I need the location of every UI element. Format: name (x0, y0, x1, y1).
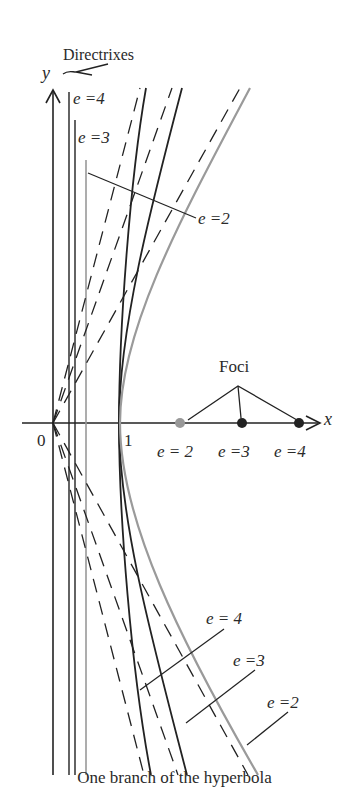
directrix-label-e4: e =4 (73, 90, 105, 107)
leader-e3-bottom (186, 670, 255, 723)
foci-pointer (188, 386, 297, 420)
asymptote-e3-lower (53, 423, 178, 775)
foci (175, 386, 304, 428)
foci-pointer-mid (238, 386, 241, 418)
leader-e2-bottom (247, 712, 288, 745)
hyperbola-branches (119, 88, 258, 775)
directrixes-label: Directrixes (63, 47, 134, 63)
directrices (69, 92, 86, 775)
directrix-label-e3: e =3 (78, 129, 110, 146)
curve-label-e2-top: e =2 (198, 210, 230, 227)
y-axis-label: y (42, 64, 50, 82)
curve-label-e3-bottom: e =3 (233, 652, 265, 669)
asymptotes (53, 88, 248, 775)
asymptote-e4-lower (53, 423, 144, 775)
focus-label-e2: e = 2 (157, 443, 193, 460)
axes (22, 90, 320, 775)
foci-label: Foci (219, 358, 249, 375)
focus-label-e4: e =4 (274, 443, 306, 460)
origin-label: 0 (37, 432, 46, 449)
directrixes-pointer (63, 64, 108, 75)
curve-label-e2-bottom: e =2 (267, 694, 299, 711)
asymptote-e2-lower (53, 423, 248, 775)
hyperbola-e2 (120, 88, 258, 775)
focus-e3 (237, 418, 247, 428)
curve-label-e4-bottom: e = 4 (206, 610, 242, 627)
vertex-label: 1 (124, 432, 133, 449)
focus-label-e3: e =3 (218, 443, 250, 460)
hyperbola-diagram (0, 0, 349, 804)
focus-e2 (175, 418, 185, 428)
asymptote-e3-upper (53, 88, 172, 423)
x-axis-label: x (324, 410, 332, 428)
figure-caption: One branch of the hyperbola (0, 768, 349, 788)
